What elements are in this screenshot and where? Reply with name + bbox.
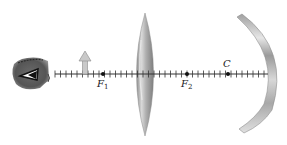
- point-f2: [185, 72, 189, 76]
- label-c: C: [223, 59, 231, 69]
- diagram-canvas: [0, 0, 287, 145]
- eye-icon: [12, 58, 49, 90]
- label-f1: F1: [97, 79, 108, 89]
- point-f1: [101, 72, 105, 76]
- optics-diagram: F1 F2 C: [0, 0, 287, 145]
- label-f2: F2: [181, 79, 192, 89]
- point-c: [226, 72, 230, 76]
- object-arrow-icon: [79, 51, 91, 74]
